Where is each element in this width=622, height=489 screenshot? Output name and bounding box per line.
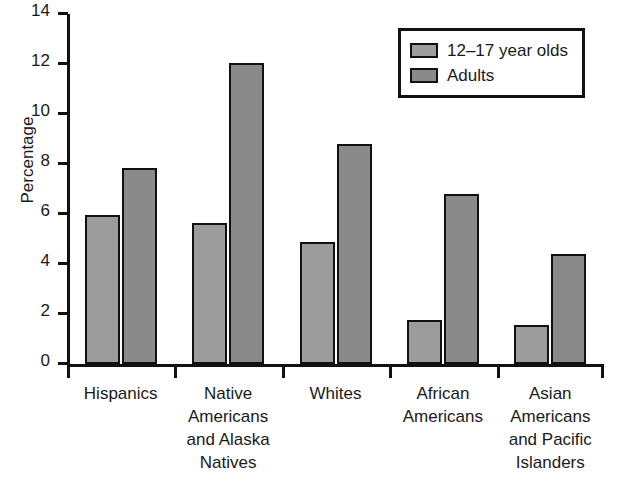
y-tick: 4 [58, 262, 68, 265]
x-category-label-line: and Alaska [168, 428, 287, 451]
x-category-label-line: Natives [168, 451, 287, 474]
bar [192, 223, 227, 364]
legend-item: 12–17 year olds [410, 38, 568, 63]
bar [337, 144, 372, 364]
bar [85, 215, 120, 364]
x-tick [174, 367, 177, 378]
y-tick-label: 6 [41, 201, 50, 221]
y-tick-label: 12 [31, 51, 50, 71]
y-tick: 0 [58, 362, 68, 365]
x-tick [497, 367, 500, 378]
x-category-label: AsianAmericansand PacificIslanders [491, 382, 610, 474]
x-category-label-line: Islanders [491, 451, 610, 474]
x-category-label: Hispanics [61, 382, 180, 405]
y-tick: 10 [58, 112, 68, 115]
x-category-label: Whites [276, 382, 395, 405]
y-tick-label: 14 [31, 1, 50, 21]
x-category-label-line: and Pacific [491, 428, 610, 451]
bar-chart: Percentage 02468101214 HispanicsNativeAm… [0, 0, 622, 489]
bar [300, 242, 335, 365]
x-category-label: NativeAmericansand AlaskaNatives [168, 382, 287, 474]
x-category-label-line: African [383, 382, 502, 405]
y-tick-label: 8 [41, 151, 50, 171]
x-category-label-line: Americans [491, 405, 610, 428]
y-tick-label: 2 [41, 301, 50, 321]
x-category-label-line: Native [168, 382, 287, 405]
y-tick: 2 [58, 312, 68, 315]
legend-label: Adults [447, 66, 494, 86]
x-category-label-line: Whites [276, 382, 395, 405]
x-tick [67, 367, 70, 378]
x-tick [601, 367, 604, 378]
y-axis-label: Percentage [18, 70, 38, 250]
x-category-label-line: Asian [491, 382, 610, 405]
bar [229, 63, 264, 364]
y-tick: 8 [58, 162, 68, 165]
bar [407, 320, 442, 364]
bar [444, 194, 479, 364]
legend-item: Adults [410, 63, 568, 88]
bar [122, 168, 157, 364]
x-axis-line [67, 364, 604, 367]
y-tick-label: 4 [41, 251, 50, 271]
x-tick [389, 367, 392, 378]
x-category-label-line: Americans [383, 405, 502, 428]
bar [514, 325, 549, 364]
x-category-label: AfricanAmericans [383, 382, 502, 428]
x-category-label-line: Americans [168, 405, 287, 428]
y-tick: 6 [58, 212, 68, 215]
y-tick: 12 [58, 62, 68, 65]
y-tick-label: 10 [31, 101, 50, 121]
chart-legend: 12–17 year oldsAdults [398, 28, 585, 98]
legend-label: 12–17 year olds [447, 41, 568, 61]
chart-title [0, 0, 622, 4]
y-tick-label: 0 [41, 351, 50, 371]
y-tick: 14 [58, 12, 68, 15]
legend-swatch-icon [410, 68, 438, 83]
x-category-label-line: Hispanics [61, 382, 180, 405]
legend-swatch-icon [410, 43, 438, 58]
x-tick [282, 367, 285, 378]
bar [551, 254, 586, 364]
